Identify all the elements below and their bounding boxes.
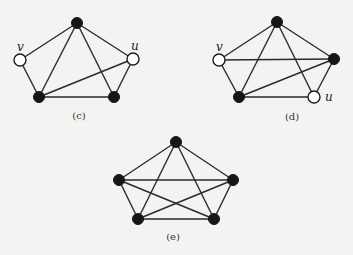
vertex-v: [14, 54, 26, 66]
vertex-br: [109, 92, 120, 103]
vertex-label-u: u: [131, 39, 139, 53]
vertex-u: [308, 91, 320, 103]
vertex-right: [228, 175, 239, 186]
caption-e: (e): [166, 231, 180, 242]
vertex-label-u: u: [325, 90, 333, 104]
edge-bl-right: [239, 59, 334, 97]
vertex-right: [329, 54, 340, 65]
graph-e: (e): [114, 137, 239, 243]
edge-top-bl: [39, 23, 77, 97]
vertex-br: [209, 214, 220, 225]
edge-v-right: [219, 59, 334, 60]
graph-c: vu(c): [14, 18, 139, 122]
edge-bl-u: [39, 59, 133, 97]
edge-top-left: [119, 142, 176, 180]
vertex-u: [127, 53, 139, 65]
graph-d: vu(d): [213, 17, 340, 123]
vertex-top: [272, 17, 283, 28]
graph-figure: vu(c) vu(d) (e): [0, 0, 353, 255]
vertex-label-v: v: [17, 40, 24, 54]
edge-left-br: [119, 180, 214, 219]
edge-top-v: [219, 22, 277, 60]
caption-c: (c): [72, 110, 86, 121]
edge-left-bl: [119, 180, 138, 219]
edge-top-right: [176, 142, 233, 180]
edge-right-br: [214, 180, 233, 219]
vertex-top: [72, 18, 83, 29]
vertex-bl: [133, 214, 144, 225]
edge-top-v: [20, 23, 77, 60]
vertex-bl: [34, 92, 45, 103]
vertex-label-v: v: [216, 40, 223, 54]
vertex-v: [213, 54, 225, 66]
vertex-bl: [234, 92, 245, 103]
vertex-left: [114, 175, 125, 186]
vertex-top: [171, 137, 182, 148]
edge-right-bl: [138, 180, 233, 219]
caption-d: (d): [285, 111, 299, 122]
